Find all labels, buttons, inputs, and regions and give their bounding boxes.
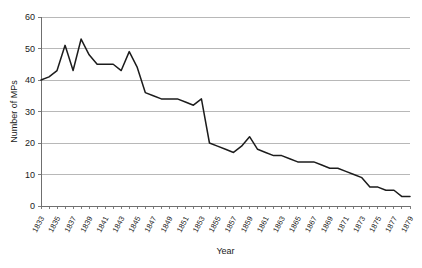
y-tick-label: 50: [25, 44, 35, 54]
x-tick-label: 1869: [319, 215, 335, 234]
x-tick-label: 1839: [79, 215, 95, 234]
x-tick-label: 1853: [191, 215, 207, 234]
x-tick-label: 1849: [159, 215, 175, 234]
x-tick-label: 1873: [351, 215, 367, 234]
chart-container: 0102030405060 18331835183718391841184318…: [0, 0, 422, 268]
x-tick-label: 1863: [271, 215, 287, 234]
x-tick-label: 1865: [287, 215, 303, 234]
y-tick-label: 20: [25, 138, 35, 148]
gridlines: [41, 17, 410, 175]
x-tick-label: 1871: [335, 215, 351, 234]
y-axis-title: Number of MPs: [9, 80, 19, 143]
line-chart: 0102030405060 18331835183718391841184318…: [0, 0, 422, 268]
y-tick-label: 60: [25, 12, 35, 22]
y-tick-label: 30: [25, 107, 35, 117]
y-tick-label: 10: [25, 170, 35, 180]
y-tick-label: 40: [25, 75, 35, 85]
x-axis-tick-labels: 1833183518371839184118431845184718491851…: [30, 215, 415, 234]
x-tick-label: 1859: [239, 215, 255, 234]
x-tick-label: 1861: [255, 215, 271, 234]
x-tick-label: 1877: [383, 215, 399, 234]
data-series-line: [41, 39, 410, 197]
x-tick-label: 1837: [62, 215, 78, 234]
y-axis-tick-labels: 0102030405060: [25, 12, 35, 211]
x-axis-title: Year: [216, 246, 234, 256]
x-tick-label: 1857: [223, 215, 239, 234]
x-tick-label: 1867: [303, 215, 319, 234]
x-tick-label: 1855: [207, 215, 223, 234]
x-tick-label: 1841: [95, 215, 111, 234]
x-tick-label: 1879: [399, 215, 415, 234]
x-tick-label: 1835: [46, 215, 62, 234]
x-tick-label: 1875: [367, 215, 383, 234]
y-tick-label: 0: [30, 201, 35, 211]
x-tick-label: 1847: [143, 215, 159, 234]
x-tick-label: 1845: [127, 215, 143, 234]
x-tick-label: 1851: [175, 215, 191, 234]
x-tick-label: 1843: [111, 215, 127, 234]
x-tick-label: 1833: [30, 215, 46, 234]
